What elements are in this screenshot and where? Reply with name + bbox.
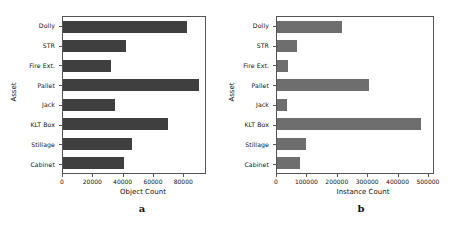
y-tick-label: STR	[226, 36, 274, 56]
x-tick-label: 20000	[83, 178, 102, 185]
bar-row	[277, 154, 433, 174]
y-tick-label: Fire Ext.	[0, 56, 60, 76]
bar-row	[277, 134, 433, 154]
figure-container: Asset DollySTRFire Ext.PalletJackKLT Box…	[0, 0, 452, 225]
y-tick-mark	[273, 125, 276, 126]
bar-row	[63, 76, 205, 96]
bar-row	[63, 56, 205, 76]
x-tick-label: 200000	[325, 178, 348, 185]
bar-row	[63, 37, 205, 57]
bar-klt-box	[277, 118, 421, 130]
y-tick-label: Cabinet	[0, 154, 60, 174]
bar-jack	[277, 99, 287, 111]
x-tick-label: 0	[274, 178, 278, 185]
bar-cabinet	[63, 157, 124, 169]
x-tick-mark	[367, 174, 368, 177]
y-tick-mark	[59, 46, 62, 47]
x-tick-mark	[153, 174, 154, 177]
y-tick-label: Stillage	[226, 135, 274, 155]
bar-str	[63, 40, 126, 52]
y-tick-label: Dolly	[0, 16, 60, 36]
bar-dolly	[277, 21, 342, 33]
bar-pallet	[63, 79, 199, 91]
x-tick-label: 40000	[113, 178, 132, 185]
y-tick-label: Cabinet	[226, 154, 274, 174]
x-tick-label: 60000	[143, 178, 162, 185]
x-tick-mark	[337, 174, 338, 177]
y-tick-mark	[59, 85, 62, 86]
bar-row	[63, 115, 205, 135]
x-axis-title-b: Instance Count	[226, 188, 452, 196]
panel-caption-b: b	[226, 203, 452, 214]
y-tick-label: STR	[0, 36, 60, 56]
x-tick-label: 500000	[416, 178, 439, 185]
y-tick-mark	[59, 125, 62, 126]
bar-group-a	[63, 17, 205, 173]
y-tick-label: Dolly	[226, 16, 274, 36]
bar-jack	[63, 99, 115, 111]
y-tick-label: Fire Ext.	[226, 56, 274, 76]
bar-stillage	[63, 138, 132, 150]
bar-row	[63, 95, 205, 115]
y-tick-mark	[59, 164, 62, 165]
x-tick-labels-b: 0100000200000300000400000500000	[276, 174, 434, 184]
bar-row	[277, 56, 433, 76]
bar-klt-box	[63, 118, 168, 130]
y-tick-label: Pallet	[226, 75, 274, 95]
y-tick-mark	[59, 65, 62, 66]
x-tick-mark	[62, 174, 63, 177]
y-tick-mark	[273, 164, 276, 165]
bar-row	[277, 37, 433, 57]
y-tick-mark	[273, 65, 276, 66]
y-tick-mark	[59, 144, 62, 145]
x-tick-label: 100000	[295, 178, 318, 185]
y-tick-mark	[273, 85, 276, 86]
y-tick-label: KLT Box	[0, 115, 60, 135]
x-tick-label: 80000	[174, 178, 193, 185]
bar-fire-ext	[63, 60, 111, 72]
y-tick-mark	[59, 105, 62, 106]
bar-fire-ext	[277, 60, 288, 72]
y-tick-mark	[273, 26, 276, 27]
chart-panel-a: Asset DollySTRFire Ext.PalletJackKLT Box…	[0, 0, 226, 225]
bar-row	[63, 134, 205, 154]
panel-caption-a: a	[0, 203, 226, 214]
plot-area-b	[276, 16, 434, 174]
y-tick-mark	[273, 105, 276, 106]
y-tick-label: Stillage	[0, 135, 60, 155]
y-tick-labels-a: DollySTRFire Ext.PalletJackKLT BoxStilla…	[0, 16, 60, 174]
y-tick-mark	[273, 144, 276, 145]
y-tick-label: KLT Box	[226, 115, 274, 135]
x-tick-mark	[123, 174, 124, 177]
y-tick-mark	[273, 46, 276, 47]
bar-dolly	[63, 21, 187, 33]
x-tick-label: 400000	[386, 178, 409, 185]
bar-row	[63, 154, 205, 174]
y-tick-label: Pallet	[0, 75, 60, 95]
bar-row	[277, 76, 433, 96]
bar-group-b	[277, 17, 433, 173]
x-axis-title-a: Object Count	[0, 188, 226, 196]
x-tick-label: 300000	[356, 178, 379, 185]
bar-str	[277, 40, 297, 52]
x-tick-mark	[183, 174, 184, 177]
x-tick-mark	[306, 174, 307, 177]
y-tick-mark	[59, 26, 62, 27]
bar-row	[277, 17, 433, 37]
x-tick-mark	[398, 174, 399, 177]
x-tick-mark	[92, 174, 93, 177]
x-tick-mark	[276, 174, 277, 177]
bar-pallet	[277, 79, 369, 91]
x-tick-label: 0	[60, 178, 64, 185]
plot-area-a	[62, 16, 206, 174]
bar-row	[63, 17, 205, 37]
x-tick-labels-a: 020000400006000080000	[62, 174, 206, 184]
y-tick-labels-b: DollySTRFire Ext.PalletJackKLT BoxStilla…	[226, 16, 274, 174]
y-tick-label: Jack	[0, 95, 60, 115]
bar-row	[277, 95, 433, 115]
bar-stillage	[277, 138, 306, 150]
x-tick-mark	[428, 174, 429, 177]
y-tick-label: Jack	[226, 95, 274, 115]
chart-panel-b: Asset DollySTRFire Ext.PalletJackKLT Box…	[226, 0, 452, 225]
bar-row	[277, 115, 433, 135]
